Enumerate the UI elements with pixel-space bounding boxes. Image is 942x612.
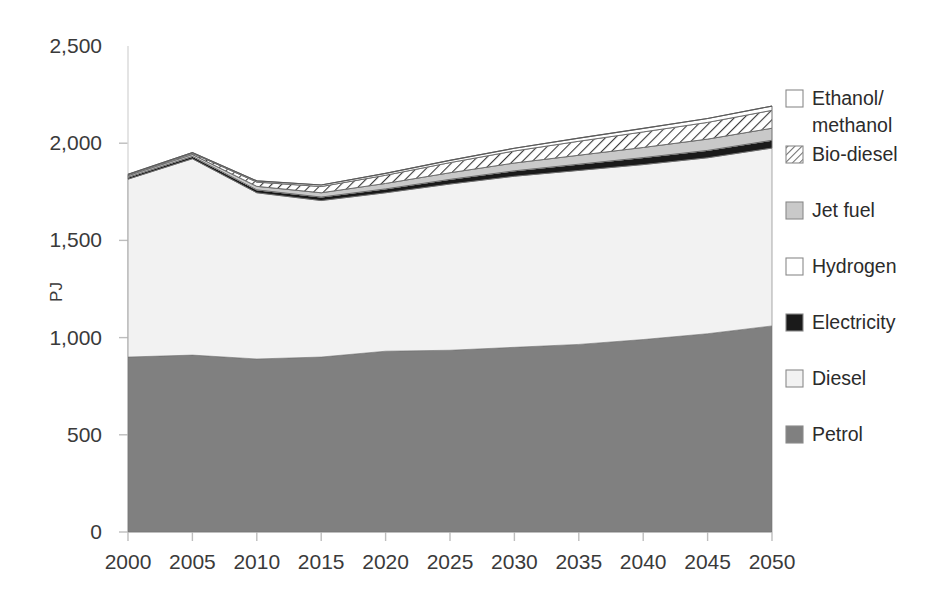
x-tick-label: 2010 bbox=[233, 550, 280, 573]
x-tick-label: 2020 bbox=[362, 550, 409, 573]
x-tick-label: 2040 bbox=[620, 550, 667, 573]
x-tick-label: 2015 bbox=[298, 550, 345, 573]
legend-item[interactable]: Hydrogen bbox=[786, 255, 897, 277]
legend-label-line2: methanol bbox=[812, 114, 892, 136]
x-tick-label: 2030 bbox=[491, 550, 538, 573]
chart-legend: Ethanol/methanolBio-dieselJet fuelHydrog… bbox=[786, 87, 898, 445]
x-axis-tickmarks bbox=[128, 532, 772, 541]
x-axis-tick-labels: 2000200520102015202020252030203520402045… bbox=[105, 550, 796, 573]
x-tick-label: 2005 bbox=[169, 550, 216, 573]
legend-label: Bio-diesel bbox=[812, 143, 898, 165]
x-tick-label: 2025 bbox=[427, 550, 474, 573]
chart-container: 05001,0001,5002,0002,500 200020052010201… bbox=[0, 0, 942, 612]
legend-item[interactable]: Electricity bbox=[786, 311, 896, 333]
x-tick-label: 2050 bbox=[749, 550, 796, 573]
y-axis-tickmarks bbox=[119, 143, 128, 532]
legend-label: Diesel bbox=[812, 367, 866, 389]
y-tick-label: 1,500 bbox=[49, 228, 102, 251]
legend-item[interactable]: Bio-diesel bbox=[786, 143, 898, 165]
legend-item[interactable]: Petrol bbox=[786, 423, 863, 445]
legend-item[interactable]: Diesel bbox=[786, 367, 866, 389]
legend-swatch-hydrogen bbox=[786, 258, 803, 275]
area-series-layers bbox=[128, 106, 772, 532]
y-tick-label: 2,500 bbox=[49, 34, 102, 57]
y-tick-label: 2,000 bbox=[49, 131, 102, 154]
x-tick-label: 2000 bbox=[105, 550, 152, 573]
legend-swatch-diesel bbox=[786, 370, 803, 387]
legend-swatch-bio-diesel bbox=[786, 146, 803, 163]
legend-swatch-jet-fuel bbox=[786, 202, 803, 219]
legend-label: Hydrogen bbox=[812, 255, 897, 277]
legend-label: Ethanol/ bbox=[812, 87, 884, 109]
legend-item[interactable]: Ethanol/methanol bbox=[786, 87, 892, 136]
legend-swatch-ethanol-methanol bbox=[786, 90, 803, 107]
y-tick-label: 1,000 bbox=[49, 326, 102, 349]
legend-label: Electricity bbox=[812, 311, 896, 333]
legend-swatch-petrol bbox=[786, 426, 803, 443]
legend-label: Petrol bbox=[812, 423, 863, 445]
legend-item[interactable]: Jet fuel bbox=[786, 199, 875, 221]
y-tick-label: 0 bbox=[90, 520, 102, 543]
y-tick-label: 500 bbox=[67, 423, 102, 446]
x-tick-label: 2045 bbox=[684, 550, 731, 573]
legend-swatch-electricity bbox=[786, 314, 803, 331]
y-axis-title: PJ bbox=[47, 282, 66, 302]
x-tick-label: 2035 bbox=[555, 550, 602, 573]
legend-label: Jet fuel bbox=[812, 199, 875, 221]
stacked-area-chart: 05001,0001,5002,0002,500 200020052010201… bbox=[0, 0, 942, 612]
